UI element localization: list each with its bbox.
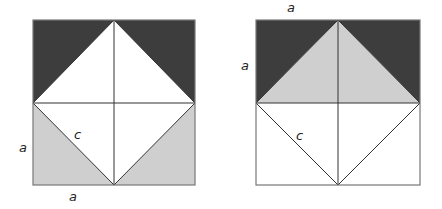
left-label-side-horizontal: a: [69, 189, 77, 204]
left-label-hypotenuse: c: [74, 127, 81, 142]
left-figure: a a c: [19, 20, 195, 204]
right-label-side-vertical: a: [241, 58, 249, 73]
diagram-canvas: a a c a a c: [0, 0, 442, 209]
left-label-side-vertical: a: [19, 140, 27, 155]
right-figure: a a c: [241, 0, 420, 185]
right-label-hypotenuse: c: [296, 128, 303, 143]
right-label-side-horizontal: a: [287, 0, 295, 15]
